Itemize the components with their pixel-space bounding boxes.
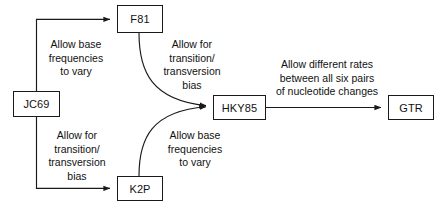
node-jc69[interactable]: JC69 (13, 91, 60, 117)
node-gtr-label: GTR (399, 102, 423, 114)
node-f81[interactable]: F81 (117, 5, 163, 33)
node-gtr[interactable]: GTR (388, 95, 434, 120)
node-hky85[interactable]: HKY85 (213, 95, 266, 120)
node-k2p-label: K2P (129, 183, 150, 195)
node-f81-label: F81 (130, 13, 149, 25)
diagram-canvas: JC69 F81 K2P HKY85 GTR Allow base freque… (0, 0, 444, 210)
edge-label-f81-to-hky85: Allow for transition/ transversion bias (150, 38, 234, 92)
edge-label-k2p-to-hky85: Allow base frequencies to vary (152, 129, 238, 170)
node-hky85-label: HKY85 (222, 102, 257, 114)
edge-label-jc69-to-f81: Allow base frequencies to vary (32, 38, 120, 79)
edge-label-hky85-to-gtr: Allow different rates between all six pa… (260, 58, 394, 99)
node-k2p[interactable]: K2P (117, 176, 163, 201)
node-jc69-label: JC69 (23, 98, 49, 110)
edge-label-jc69-to-k2p: Allow for transition/ transversion bias (34, 129, 120, 183)
